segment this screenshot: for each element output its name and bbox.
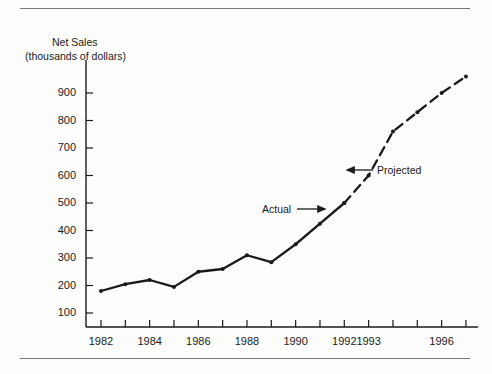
x-axis-tick-label: 1986 <box>174 336 222 347</box>
y-axis-tick-label: 800 <box>42 115 76 126</box>
x-axis-tick-label: 1988 <box>223 336 271 347</box>
x-axis-tick-label: 1984 <box>126 336 174 347</box>
y-axis-tick-label: 100 <box>42 307 76 318</box>
data-point-marker <box>269 260 273 264</box>
data-point-marker <box>367 174 371 178</box>
x-axis-tick-label: 1990 <box>272 336 320 347</box>
x-axis-tick-label: 1993 <box>345 336 393 347</box>
series-line-actual <box>101 203 344 291</box>
x-axis-tick-label: 1996 <box>418 336 466 347</box>
annotation-label-projected: Projected <box>377 165 421 176</box>
y-axis-tick-label: 200 <box>42 280 76 291</box>
data-point-marker <box>99 289 103 293</box>
data-point-marker <box>440 91 444 95</box>
data-point-marker <box>464 75 468 79</box>
data-point-marker <box>123 282 127 286</box>
annotation-arrows-group <box>297 170 373 209</box>
data-point-marker <box>221 267 225 271</box>
data-point-marker <box>342 201 346 205</box>
data-point-marker <box>415 110 419 114</box>
data-point-marker <box>318 222 322 226</box>
axes-group <box>86 60 478 327</box>
data-point-marker <box>391 130 395 134</box>
data-point-marker <box>148 278 152 282</box>
y-axis-tick-label: 900 <box>42 87 76 98</box>
y-axis-tick-label: 400 <box>42 225 76 236</box>
annotation-label-actual: Actual <box>262 204 291 215</box>
x-axis-tick-label: 1982 <box>77 336 125 347</box>
data-series-group <box>99 75 468 294</box>
data-point-marker <box>196 270 200 274</box>
y-axis-tick-label: 600 <box>42 170 76 181</box>
series-line-projected <box>344 77 466 204</box>
data-point-marker <box>245 253 249 257</box>
y-axis-tick-label: 300 <box>42 252 76 263</box>
y-axis-tick-label: 500 <box>42 197 76 208</box>
chart-page: Net Sales (thousands of dollars) 9008007… <box>0 0 492 374</box>
data-point-marker <box>172 285 176 289</box>
data-point-marker <box>294 242 298 246</box>
y-axis-tick-label: 700 <box>42 142 76 153</box>
